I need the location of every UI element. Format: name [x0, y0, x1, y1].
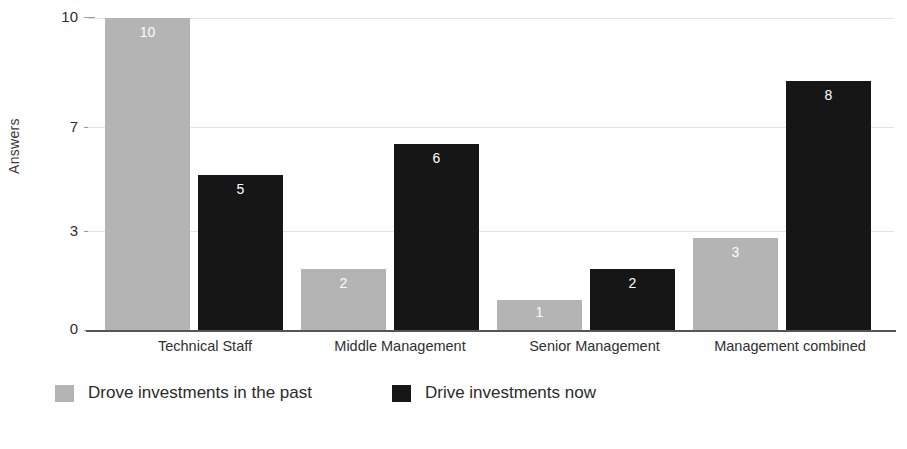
bar-senior-management-past[interactable]: 1 [497, 300, 582, 332]
y-tick-label-3: 3 [38, 223, 78, 238]
legend-label-past: Drove investments in the past [88, 383, 312, 403]
y-tick-label-0: 0 [38, 321, 78, 336]
bar-middle-management-now[interactable]: 6 [394, 144, 479, 332]
legend-label-now: Drive investments now [425, 383, 596, 403]
bar-senior-management-now[interactable]: 2 [590, 269, 675, 332]
plot-area: 10 5 2 6 1 2 3 8 [88, 18, 894, 332]
legend-swatch-icon-now [392, 385, 411, 402]
bar-value-management-combined-past: 3 [693, 245, 778, 259]
legend-item-drove-investments-past[interactable]: Drove investments in the past [55, 383, 312, 403]
chart-legend: Drove investments in the past Drive inve… [55, 383, 596, 403]
x-axis-label-senior-management: Senior Management [487, 338, 702, 354]
gridline-7 [88, 127, 894, 128]
legend-swatch-icon-past [55, 385, 74, 402]
bar-chart: Answers 10 7 3 0 10 5 2 6 [0, 0, 907, 449]
bar-value-senior-management-now: 2 [590, 276, 675, 290]
y-axis-title: Answers [6, 64, 22, 174]
bar-value-senior-management-past: 1 [497, 305, 582, 319]
x-axis-label-management-combined: Management combined [675, 338, 905, 354]
bar-value-technical-staff-now: 5 [198, 182, 283, 196]
legend-item-drive-investments-now[interactable]: Drive investments now [392, 383, 596, 403]
bar-management-combined-now[interactable]: 8 [786, 81, 871, 332]
bar-value-management-combined-now: 8 [786, 88, 871, 102]
bar-value-middle-management-past: 2 [301, 276, 386, 290]
bar-management-combined-past[interactable]: 3 [693, 238, 778, 332]
gridline-10 [88, 18, 894, 19]
bar-technical-staff-past[interactable]: 10 [105, 18, 190, 332]
y-tick-label-10: 10 [38, 9, 78, 24]
x-axis-label-middle-management: Middle Management [290, 338, 510, 354]
bar-value-technical-staff-past: 10 [105, 25, 190, 39]
bar-value-middle-management-now: 6 [394, 151, 479, 165]
x-axis-label-technical-staff: Technical Staff [105, 338, 305, 354]
x-axis-baseline [86, 330, 896, 332]
bar-middle-management-past[interactable]: 2 [301, 269, 386, 332]
y-tick-label-7: 7 [38, 119, 78, 134]
bar-technical-staff-now[interactable]: 5 [198, 175, 283, 332]
